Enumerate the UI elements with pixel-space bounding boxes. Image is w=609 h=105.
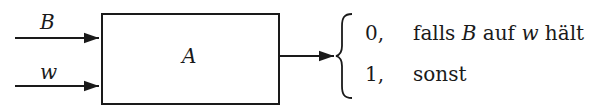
- case-condition-0-text-1: falls: [413, 21, 462, 45]
- case-condition-0-text-2: auf: [476, 21, 521, 45]
- case-brace-icon: [336, 14, 352, 98]
- diagram-canvas: [0, 0, 609, 105]
- case-condition-0-var-w: w: [521, 21, 538, 45]
- case-condition-0: falls B auf w hält: [413, 23, 584, 43]
- input-label-w: w: [40, 62, 57, 82]
- box-label-a: A: [182, 46, 196, 66]
- input-label-b: B: [40, 12, 55, 32]
- case-value-1: 1,: [365, 64, 384, 84]
- case-condition-0-text-3: hält: [539, 21, 585, 45]
- case-condition-0-var-b: B: [462, 21, 477, 45]
- case-value-0: 0,: [365, 23, 384, 43]
- case-condition-1: sonst: [413, 64, 467, 84]
